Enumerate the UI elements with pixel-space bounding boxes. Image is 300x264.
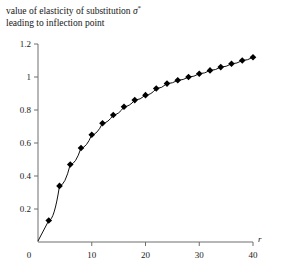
data-point-marker (99, 120, 106, 127)
x-axis-title: r (258, 234, 262, 244)
data-curve (38, 57, 253, 241)
data-point-marker (228, 61, 235, 68)
data-point-marker (121, 103, 128, 110)
data-point-marker (239, 57, 246, 64)
axes (38, 44, 253, 242)
data-point-marker (207, 67, 214, 74)
y-tick-label: 0.6 (20, 138, 32, 148)
y-axis-ticks (34, 44, 38, 209)
data-point-marker (88, 131, 95, 138)
y-tick-label: 0.2 (20, 204, 31, 214)
y-tick-label: 1 (27, 72, 32, 82)
x-tick-label: 30 (195, 250, 205, 260)
data-point-marker (56, 183, 63, 190)
data-point-marker (78, 145, 85, 152)
y-tick-label: 0.8 (20, 105, 32, 115)
y-tick-label: 0.4 (20, 171, 32, 181)
x-axis-tick-labels: 10203040 (87, 250, 258, 260)
axis-lines (38, 44, 253, 242)
data-point-marker (196, 70, 203, 77)
data-point-marker (110, 112, 117, 119)
chart-plot-area: 00.20.40.60.811.2 10203040 r (0, 0, 300, 264)
x-tick-label: 20 (141, 250, 151, 260)
x-tick-label: 40 (249, 250, 259, 260)
y-axis-tick-labels: 00.20.40.60.811.2 (20, 39, 32, 260)
chart-figure: value of elasticity of substitution σ* l… (0, 0, 300, 264)
data-point-marker (217, 64, 224, 71)
y-tick-label: 0 (27, 250, 32, 260)
data-point-marker (174, 77, 181, 84)
data-markers (45, 54, 256, 224)
x-tick-label: 10 (87, 250, 97, 260)
data-point-marker (185, 74, 192, 81)
y-tick-label: 1.2 (20, 39, 31, 49)
data-point-marker (67, 161, 74, 168)
x-axis-ticks (92, 242, 253, 246)
data-point-marker (250, 54, 257, 61)
